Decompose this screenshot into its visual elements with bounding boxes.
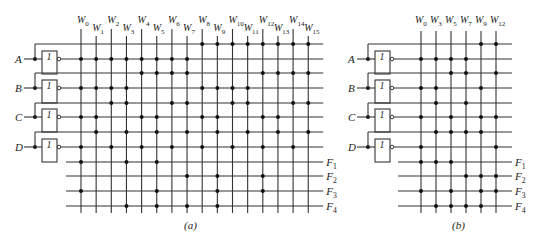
or-plane-connection: [155, 189, 159, 193]
input-a-block: A1: [14, 44, 323, 74]
inversion-bubble: [57, 86, 61, 90]
and-plane-connection: [170, 101, 174, 105]
and-plane-connection: [434, 57, 438, 61]
inverter-label: 1: [47, 139, 52, 150]
and-plane-connection: [200, 115, 204, 119]
and-plane-connection: [215, 115, 219, 119]
input-label-d: D: [14, 141, 23, 153]
and-plane-connection: [215, 86, 219, 90]
and-plane-connection: [94, 115, 98, 119]
and-plane-connection: [449, 115, 453, 119]
or-plane-connection: [464, 174, 468, 178]
column-label-w5: W5: [445, 14, 457, 28]
output-label-f4: F4: [325, 200, 337, 215]
inversion-bubble: [390, 57, 394, 61]
or-plane-connection: [261, 174, 265, 178]
output-label-f2: F2: [325, 170, 337, 185]
or-plane-connection: [434, 204, 438, 208]
and-plane-connection: [200, 42, 204, 46]
column-label-w2: W2: [107, 14, 119, 28]
column-label-w9: W9: [475, 14, 487, 28]
column-label-w0: W0: [77, 14, 89, 28]
and-plane-connection: [231, 145, 235, 149]
and-plane-connection: [79, 145, 83, 149]
and-plane-connection: [464, 130, 468, 134]
and-plane-connection: [306, 71, 310, 75]
and-plane-connection: [215, 42, 219, 46]
and-plane-connection: [109, 101, 113, 105]
panel-caption-b: (b): [452, 219, 465, 232]
column-label-w12: W12: [259, 14, 275, 28]
inversion-bubble: [390, 86, 394, 90]
and-plane-connection: [479, 130, 483, 134]
inversion-bubble: [57, 145, 61, 149]
or-plane-connection: [155, 160, 159, 164]
or-plane-connection: [464, 204, 468, 208]
output-label-f2: F2: [514, 170, 526, 185]
inversion-bubble: [57, 57, 61, 61]
column-label-w9: W9: [213, 22, 225, 36]
and-plane-connection: [246, 42, 250, 46]
input-label-b: B: [348, 82, 355, 94]
and-plane-connection: [124, 86, 128, 90]
or-plane-connection: [215, 204, 219, 208]
or-plane-connection: [479, 174, 483, 178]
and-plane-connection: [109, 145, 113, 149]
and-plane-connection: [200, 86, 204, 90]
and-plane-connection: [170, 71, 174, 75]
inversion-bubble: [57, 115, 61, 119]
and-plane-connection: [494, 71, 498, 75]
column-label-w7: W7: [460, 14, 472, 28]
or-plane-connection: [419, 189, 423, 193]
and-plane-connection: [464, 101, 468, 105]
and-plane-connection: [494, 145, 498, 149]
and-plane-connection: [419, 57, 423, 61]
input-b-block: B1: [348, 73, 512, 103]
or-plane-connection: [185, 174, 189, 178]
panel-caption-a: (a): [184, 219, 197, 232]
and-plane-connection: [185, 71, 189, 75]
or-plane-connection: [479, 189, 483, 193]
input-label-a: A: [14, 53, 22, 65]
or-plane-connection: [79, 160, 83, 164]
and-plane-connection: [140, 57, 144, 61]
input-label-a: A: [347, 53, 355, 65]
column-label-w8: W8: [198, 14, 210, 28]
and-plane-connection: [449, 57, 453, 61]
and-plane-connection: [291, 145, 295, 149]
column-label-w3: W3: [122, 22, 134, 36]
and-plane-connection: [479, 86, 483, 90]
inverter-label: 1: [380, 51, 385, 62]
pla-diagram: A1B1C1D1F1F2F3F4W0W1W2W3W4W5W6W7W8W9W10W…: [0, 0, 553, 249]
and-plane-connection: [94, 57, 98, 61]
or-plane-connection: [449, 204, 453, 208]
input-d-block: D1: [14, 132, 323, 162]
or-plane-connection: [434, 160, 438, 164]
column-label-w7: W7: [183, 22, 195, 36]
or-plane-connection: [449, 160, 453, 164]
inverter-label: 1: [47, 109, 52, 120]
and-plane-connection: [246, 86, 250, 90]
column-label-w5: W5: [153, 22, 165, 36]
and-plane-connection: [246, 130, 250, 134]
column-label-w15: W15: [304, 22, 320, 36]
inverter-label: 1: [47, 80, 52, 91]
and-plane-connection: [291, 101, 295, 105]
and-plane-connection: [140, 115, 144, 119]
and-plane-connection: [434, 130, 438, 134]
panel-a-full-decoder: A1B1C1D1F1F2F3F4W0W1W2W3W4W5W6W7W8W9W10W…: [14, 14, 337, 232]
column-label-w0: W0: [415, 14, 427, 28]
and-plane-connection: [155, 71, 159, 75]
and-plane-connection: [155, 115, 159, 119]
and-plane-connection: [246, 101, 250, 105]
or-plane-connection: [479, 204, 483, 208]
and-plane-connection: [276, 42, 280, 46]
and-plane-connection: [479, 42, 483, 46]
column-label-w12: W12: [490, 14, 506, 28]
inverter-label: 1: [380, 109, 385, 120]
and-plane-connection: [276, 71, 280, 75]
and-plane-connection: [231, 42, 235, 46]
and-plane-connection: [276, 130, 280, 134]
or-plane-connection: [155, 204, 159, 208]
and-plane-connection: [434, 101, 438, 105]
